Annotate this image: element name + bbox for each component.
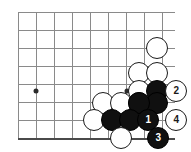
- go-board-diagram: 2143: [0, 0, 191, 152]
- move-number-label: 4: [173, 115, 178, 125]
- grid-line-vertical: [54, 12, 55, 138]
- star-point: [34, 89, 39, 94]
- stone-white-move-4[interactable]: 4: [165, 109, 187, 131]
- stone-white-move-2[interactable]: 2: [165, 80, 187, 102]
- stone-white[interactable]: [110, 127, 132, 149]
- grid-line-vertical: [72, 12, 73, 138]
- grid-line-horizontal: [18, 12, 175, 13]
- grid-line-horizontal: [18, 30, 175, 31]
- stone-black-move-3[interactable]: 3: [147, 127, 169, 149]
- move-number-label: 1: [145, 115, 150, 125]
- grid-line-vertical: [18, 12, 19, 138]
- stone-white[interactable]: [146, 37, 168, 59]
- move-number-label: 3: [155, 133, 160, 143]
- move-number-label: 2: [173, 86, 178, 96]
- grid-line-vertical: [36, 12, 37, 138]
